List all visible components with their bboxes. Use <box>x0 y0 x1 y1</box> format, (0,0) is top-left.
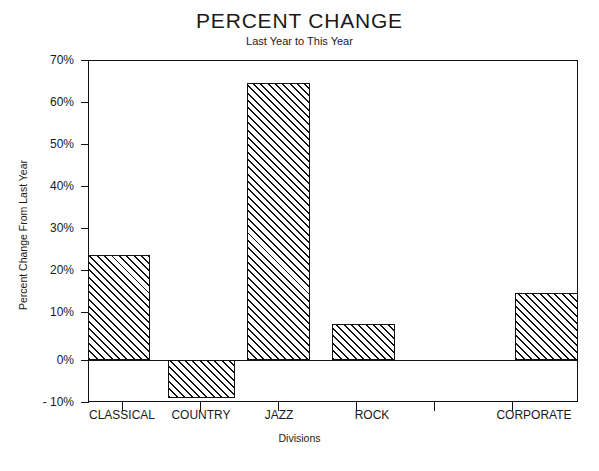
y-tick-label-neg10: - 10% <box>4 395 74 409</box>
y-tick-mark-50 <box>81 144 89 145</box>
chart-subtitle: Last Year to This Year <box>0 35 599 47</box>
y-tick-label-40: 40% <box>4 179 74 193</box>
zero-baseline <box>88 360 578 361</box>
bar-jazz <box>247 83 310 360</box>
y-tick-mark-60 <box>81 102 89 103</box>
y-tick-mark-neg10 <box>81 402 89 403</box>
bar-country <box>168 360 235 398</box>
chart-title: PERCENT CHANGE <box>0 9 599 33</box>
x-tick-mark-empty <box>434 402 435 411</box>
x-tick-label-jazz: JAZZ <box>265 408 294 422</box>
x-axis-label: Divisions <box>0 432 599 444</box>
y-tick-mark-40 <box>81 186 89 187</box>
y-tick-label-50: 50% <box>4 137 74 151</box>
x-tick-label-classical: CLASSICAL <box>89 408 155 422</box>
bar-classical <box>88 255 150 360</box>
y-tick-label-60: 60% <box>4 95 74 109</box>
y-tick-mark-30 <box>81 228 89 229</box>
y-tick-label-10: 10% <box>4 305 74 319</box>
y-tick-label-20: 20% <box>4 263 74 277</box>
percent-change-bar-chart: PERCENT CHANGE Last Year to This Year Pe… <box>0 0 599 471</box>
bar-rock <box>332 324 395 360</box>
y-tick-label-30: 30% <box>4 221 74 235</box>
x-tick-label-corporate: CORPORATE <box>496 408 571 422</box>
x-tick-label-rock: ROCK <box>355 408 390 422</box>
bar-corporate <box>515 293 578 360</box>
y-tick-label-0: 0% <box>4 353 74 367</box>
y-tick-mark-70 <box>81 60 89 61</box>
y-tick-label-70: 70% <box>4 53 74 67</box>
x-tick-label-country: COUNTRY <box>171 408 230 422</box>
